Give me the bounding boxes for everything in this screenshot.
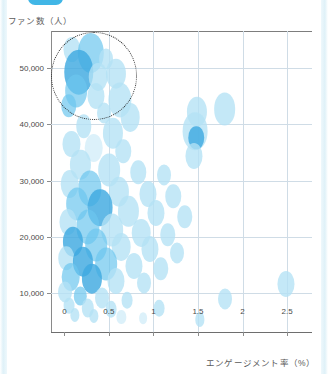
bubble-point[interactable] [186, 143, 203, 169]
cluster-highlight-circle [51, 32, 137, 119]
y-tick-label: 10,000 [0, 289, 44, 298]
bubble-point[interactable] [70, 308, 79, 322]
page-edge-left [0, 0, 7, 374]
x-tick-label: 1.5 [192, 307, 203, 316]
bubble-point[interactable] [131, 160, 147, 184]
y-tick-label: 20,000 [0, 233, 44, 242]
x-tick-label: 1 [151, 307, 155, 316]
y-tick-label: 50,000 [0, 63, 44, 72]
plot-area [51, 31, 312, 333]
bubble-point[interactable] [170, 242, 184, 263]
bubble-point[interactable] [153, 257, 169, 281]
bubble-point[interactable] [218, 289, 232, 310]
x-tick-label: 0.5 [103, 307, 114, 316]
x-tick-label: 0 [62, 307, 66, 316]
page-edge-right [321, 0, 328, 374]
bubble-point[interactable] [148, 200, 165, 226]
chart-page: ファン数（人） エンゲージメント率（%） 00.511.522.5 10,000… [0, 0, 328, 374]
y-tick-label: 40,000 [0, 120, 44, 129]
bubble-point[interactable] [139, 312, 147, 324]
bubble-point[interactable] [214, 93, 236, 126]
bubble-point[interactable] [89, 309, 98, 323]
x-axis-title: エンゲージメント率（%） [206, 356, 315, 368]
bubble-point[interactable] [165, 185, 181, 209]
bubble-point[interactable] [137, 273, 151, 294]
y-tick-label: 30,000 [0, 176, 44, 185]
bubble-point[interactable] [121, 292, 132, 308]
x-tick-label: 2 [240, 307, 244, 316]
bubble-point[interactable] [107, 268, 124, 294]
bubble-point[interactable] [278, 272, 295, 298]
tab-pill-badge[interactable] [28, 0, 63, 5]
bubble-point[interactable] [177, 205, 193, 229]
y-axis-title: ファン数（人） [8, 14, 72, 26]
bubble-point[interactable] [157, 164, 171, 185]
x-tick-label: 2.5 [281, 307, 292, 316]
bubble-point[interactable] [117, 310, 126, 324]
